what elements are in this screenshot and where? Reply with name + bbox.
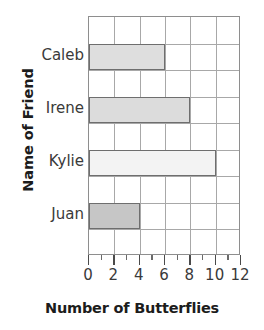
gridline-horizontal <box>89 123 239 124</box>
x-tick-major <box>240 255 241 265</box>
x-tick-major <box>113 255 114 265</box>
x-tick-major <box>189 255 190 265</box>
y-tick-label-caleb: Caleb <box>2 46 84 64</box>
gridline-vertical <box>190 17 191 254</box>
x-tick-minor <box>177 255 178 260</box>
x-tick-major <box>215 255 216 265</box>
bar-caleb <box>89 44 165 71</box>
bar-irene <box>89 97 190 124</box>
x-axis-tick-labels: 024681012 <box>88 266 240 288</box>
x-tick-major <box>164 255 165 265</box>
x-axis-ticks <box>88 255 240 265</box>
x-tick-major <box>139 255 140 265</box>
gridline-horizontal <box>89 229 239 230</box>
y-tick-label-irene: Irene <box>2 99 84 117</box>
x-axis-title: Number of Butterflies <box>0 300 264 316</box>
bar-juan <box>89 203 140 230</box>
gridline-vertical <box>216 17 217 254</box>
x-tick-minor <box>126 255 127 260</box>
plot-area <box>88 16 240 255</box>
bar-chart: Name of Friend CalebIreneKylieJuan 02468… <box>0 0 264 330</box>
x-tick-minor <box>227 255 228 260</box>
x-tick-minor <box>101 255 102 260</box>
y-tick-label-kylie: Kylie <box>2 152 84 170</box>
x-tick-major <box>88 255 89 265</box>
gridline-horizontal <box>89 70 239 71</box>
y-axis-tick-labels: CalebIreneKylieJuan <box>0 16 84 255</box>
x-tick-minor <box>202 255 203 260</box>
x-tick-minor <box>151 255 152 260</box>
y-tick-label-juan: Juan <box>2 205 84 223</box>
bar-kylie <box>89 150 216 177</box>
gridline-horizontal <box>89 176 239 177</box>
x-tick-label-12: 12 <box>220 266 260 284</box>
gridline-vertical <box>165 17 166 254</box>
